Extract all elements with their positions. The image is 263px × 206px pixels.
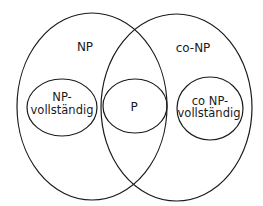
conp-label: co-NP — [176, 41, 211, 55]
np-complete-label-line1: NP- — [52, 90, 71, 104]
venn-diagram: NP co-NP NP- vollständig P co NP- vollst… — [0, 0, 263, 206]
np-label: NP — [77, 40, 93, 54]
np-complete-label-line2: vollständig — [31, 103, 94, 117]
p-label: P — [130, 100, 137, 114]
conp-complete-label-line2: vollständig — [178, 106, 241, 120]
venn-diagram-canvas: NP co-NP NP- vollständig P co NP- vollst… — [0, 0, 263, 206]
